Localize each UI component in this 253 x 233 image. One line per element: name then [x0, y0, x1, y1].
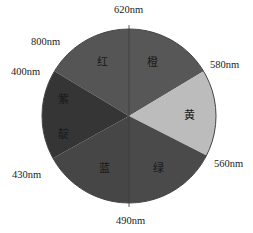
label-620nm: 620nm: [114, 4, 143, 15]
label-560nm: 560nm: [214, 158, 243, 169]
wedge-label-violet-bottom: 靛: [58, 125, 69, 141]
wedge-label-red: 红: [97, 53, 108, 69]
label-400nm: 400nm: [11, 66, 40, 77]
label-490nm: 490nm: [116, 215, 145, 226]
wedge-label-orange: 橙: [147, 53, 158, 69]
wedge-label-yellow: 黄: [184, 106, 195, 122]
wedge-label-green: 绿: [153, 159, 164, 175]
wedge-label-blue: 蓝: [99, 159, 110, 175]
wedge-label-violet-top: 紫: [58, 90, 69, 106]
color-wheel: [0, 0, 253, 233]
label-580nm: 580nm: [210, 59, 239, 70]
label-430nm: 430nm: [12, 169, 41, 180]
label-800nm: 800nm: [31, 36, 60, 47]
